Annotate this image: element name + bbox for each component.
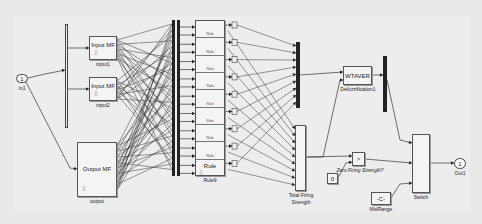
rule-block[interactable]: Rule <box>196 142 224 159</box>
total-firing-strength-block[interactable] <box>295 125 306 191</box>
wire-mf-to-demux[interactable] <box>117 41 172 45</box>
rule-block[interactable]: ⇩Rule <box>196 160 224 177</box>
wire-rule-to-total-firing[interactable] <box>228 152 295 178</box>
constant-zero-block[interactable]: 0 <box>327 173 338 184</box>
relational-symbol: > <box>353 156 364 162</box>
rule9-label: Rule9 <box>195 177 225 183</box>
down-arrow-icon: ⇩ <box>93 90 99 98</box>
wire-mf-to-demux[interactable] <box>117 24 172 99</box>
relational-operator-block[interactable]: > <box>352 152 365 166</box>
rule-label: Rule <box>196 32 224 36</box>
rule-label: Rule <box>196 50 224 54</box>
wire-rule-to-total-firing[interactable] <box>228 31 295 129</box>
down-arrow-icon: ⇩ <box>198 169 204 177</box>
arrowhead <box>229 127 232 131</box>
rule-block[interactable]: Rule <box>196 73 224 90</box>
input-mf-block-2[interactable]: Input MF ⇩ <box>89 77 117 101</box>
arrowhead <box>229 41 232 45</box>
output-mux-bar[interactable] <box>296 42 300 108</box>
wire-mf-to-demux[interactable] <box>117 119 172 146</box>
arrowhead <box>229 162 232 166</box>
wire-relational-switch[interactable] <box>365 159 412 163</box>
rule-block[interactable]: Rule <box>196 125 224 142</box>
defuzzification-block[interactable]: WTAVER <box>343 66 372 85</box>
rule-label: Rule <box>196 84 224 88</box>
wire-mux-wtaver[interactable] <box>300 72 343 75</box>
selector-block[interactable] <box>232 109 237 115</box>
wire-mf-to-demux[interactable] <box>117 86 172 165</box>
arrowhead <box>229 75 232 79</box>
rule-label: Rule <box>196 119 224 123</box>
wire-in1-output-mf[interactable] <box>26 82 77 169</box>
switch-label: Switch <box>408 194 434 200</box>
output-mf-label: output <box>77 198 117 204</box>
wire-rule-to-output-mux[interactable] <box>237 74 296 94</box>
demux-bar-1[interactable] <box>172 20 175 176</box>
total-firing-label-line2: Strength <box>285 199 317 205</box>
wire-mf-to-demux[interactable] <box>117 35 172 81</box>
rule-label: Rule <box>196 102 224 106</box>
input2-label: input2 <box>89 102 117 108</box>
wire-mf-to-demux[interactable] <box>117 142 172 179</box>
wire-rule-to-total-firing[interactable] <box>228 118 295 165</box>
selector-block[interactable] <box>232 57 237 63</box>
wire-rule-to-total-firing[interactable] <box>228 100 295 157</box>
in1-port[interactable]: 1 <box>16 74 28 83</box>
selector-block[interactable] <box>232 160 237 166</box>
wire-rule-to-output-mux[interactable] <box>237 88 296 129</box>
wire-rule-to-output-mux[interactable] <box>237 25 296 46</box>
output-mf-title: Output MF <box>78 166 116 172</box>
selector-block[interactable] <box>232 143 237 149</box>
rule-block-stack[interactable]: RuleRuleRuleRuleRuleRuleRuleRule⇩Rule <box>195 20 225 176</box>
selector-block[interactable] <box>232 74 237 80</box>
constant-zero-value: 0 <box>328 176 337 182</box>
wire-in1-mux[interactable] <box>28 70 65 78</box>
in1-label: In1 <box>14 85 30 91</box>
wire-mf-to-demux[interactable] <box>117 24 172 190</box>
signal-lines <box>0 0 482 224</box>
arrowhead <box>229 92 232 96</box>
wire-rule-to-output-mux[interactable] <box>237 81 296 112</box>
switch-block[interactable] <box>412 134 430 193</box>
down-arrow-icon: ⇩ <box>81 185 87 193</box>
wire-rule-to-total-firing[interactable] <box>228 169 295 185</box>
defuzz-mux-bar[interactable] <box>383 56 387 112</box>
wtaver-title: WTAVER <box>344 73 371 79</box>
mux-bar[interactable] <box>65 24 68 128</box>
wire-rule-to-output-mux[interactable] <box>237 42 296 53</box>
arrowhead <box>229 144 232 148</box>
rule-label: Rule <box>196 67 224 71</box>
total-firing-label-line1: Total Firing <box>285 192 317 198</box>
wire-rule-to-total-firing[interactable] <box>228 48 295 136</box>
out1-label: Out1 <box>452 170 468 176</box>
wire-rule-to-output-mux[interactable] <box>237 102 296 163</box>
midrange-label: MidRange <box>366 206 396 212</box>
selector-block[interactable] <box>232 126 237 132</box>
selector-block[interactable] <box>232 22 237 28</box>
arrowhead <box>229 110 232 114</box>
wire-bar-switch[interactable] <box>387 80 412 143</box>
demux-bar-2[interactable] <box>177 20 180 176</box>
wire-firing-relational[interactable] <box>306 156 352 157</box>
midrange-value: -C- <box>372 196 390 202</box>
input1-label: input1 <box>89 61 117 67</box>
down-arrow-icon: ⇩ <box>93 49 99 57</box>
wire-mf-to-demux[interactable] <box>117 24 172 40</box>
rule-block[interactable]: Rule <box>196 56 224 73</box>
wire-rule-to-total-firing[interactable] <box>228 83 295 150</box>
wire-rule-to-output-mux[interactable] <box>237 95 296 146</box>
rule-block[interactable]: Rule <box>196 108 224 125</box>
rule-label: Rule <box>196 136 224 140</box>
rule-block[interactable]: Rule <box>196 90 224 107</box>
rule-label: Rule <box>196 154 224 158</box>
input-mf-block-1[interactable]: Input MF ⇩ <box>89 36 117 60</box>
rule-block[interactable]: Rule <box>196 21 224 38</box>
selector-block[interactable] <box>232 39 237 45</box>
selector-block[interactable] <box>232 91 237 97</box>
input-mf-title: Input MF <box>90 42 116 48</box>
zero-firing-label: Zero Firing Strength? <box>330 167 390 173</box>
out1-port[interactable]: 1 <box>454 158 466 169</box>
rule-block[interactable]: Rule <box>196 38 224 55</box>
output-mf-block[interactable]: Output MF ⇩ <box>77 142 117 197</box>
midrange-constant-block[interactable]: -C- <box>371 192 391 205</box>
